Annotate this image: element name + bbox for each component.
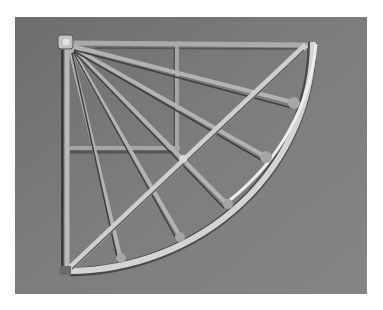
top-bar-shadow: [95, 48, 300, 49]
corner-foot: [60, 266, 71, 275]
top-bar: [70, 43, 308, 45]
pivot-screw: [63, 39, 70, 46]
joint-4: [175, 232, 185, 242]
joint-1: [288, 97, 300, 109]
joint-3: [223, 199, 233, 209]
joint-2: [260, 151, 272, 163]
center-junction: [179, 155, 187, 163]
joint-5: [116, 253, 126, 263]
quadrant-frame: [0, 0, 383, 310]
